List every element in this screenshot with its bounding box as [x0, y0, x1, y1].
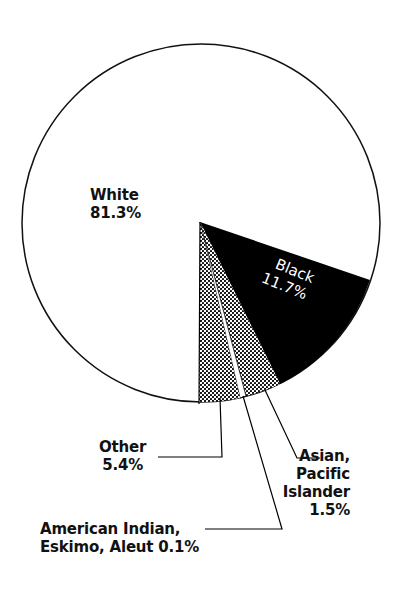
leader-other [158, 398, 222, 457]
label-american-indian: American Indian, Eskimo, Aleut 0.1% [40, 520, 199, 556]
label-asian: Asian, Pacific Islander 1.5% [283, 447, 350, 519]
label-white: White 81.3% [90, 186, 141, 222]
label-other: Other 5.4% [99, 438, 146, 474]
leader-amind [205, 396, 282, 529]
